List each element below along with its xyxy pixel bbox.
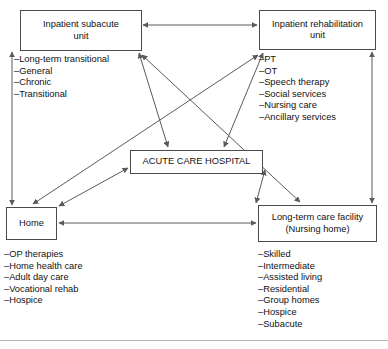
- list-item: –Chronic: [14, 77, 109, 89]
- node-long-term-care-facility[interactable]: Long-term care facility(Nursing home): [258, 205, 377, 242]
- list-item: –Hospice: [258, 307, 322, 319]
- list-item: –Nursing care: [259, 100, 336, 112]
- list-long-term-care-facility: –Skilled –Intermediate –Assisted living …: [258, 249, 322, 330]
- list-item: –Home health care: [4, 261, 83, 273]
- edge-rehab-acute: [224, 53, 263, 147]
- node-label: ACUTE CARE HOSPITAL: [140, 156, 254, 168]
- edge-subacute-acute: [139, 53, 168, 147]
- node-acute-care-hospital[interactable]: ACUTE CARE HOSPITAL: [130, 150, 263, 174]
- node-label: Long-term care facility(Nursing home): [269, 212, 366, 235]
- frame-bottom-divider: [0, 340, 388, 341]
- list-item: –Adult day care: [4, 272, 83, 284]
- list-item: –Transitional: [14, 89, 109, 101]
- list-item: –OP therapies: [4, 249, 83, 261]
- node-label: Inpatient subacuteunit: [40, 19, 122, 42]
- node-label: Inpatient rehabilitationunit: [269, 19, 366, 42]
- list-item: –Skilled: [258, 249, 322, 261]
- node-inpatient-subacute-unit[interactable]: Inpatient subacuteunit: [20, 10, 142, 51]
- list-item: –Subacute: [258, 319, 322, 331]
- list-inpatient-subacute-unit: –Long-term transitional –General –Chroni…: [14, 54, 109, 100]
- list-item: –PT: [259, 54, 336, 66]
- node-home[interactable]: Home: [6, 207, 57, 240]
- list-item: –Vocational rehab: [4, 284, 83, 296]
- list-item: –Long-term transitional: [14, 54, 109, 66]
- list-item: –Intermediate: [258, 261, 322, 273]
- list-item: –Group homes: [258, 295, 322, 307]
- list-item: –Social services: [259, 89, 336, 101]
- node-inpatient-rehabilitation-unit[interactable]: Inpatient rehabilitationunit: [259, 10, 376, 50]
- list-item: –General: [14, 66, 109, 78]
- edge-home-acute: [59, 168, 128, 206]
- list-item: –Hospice: [4, 295, 83, 307]
- node-label: Home: [16, 218, 47, 230]
- list-item: –Speech therapy: [259, 77, 336, 89]
- list-item: –OT: [259, 66, 336, 78]
- list-inpatient-rehabilitation-unit: –PT –OT –Speech therapy –Social services…: [259, 54, 336, 124]
- list-item: –Ancillary services: [259, 112, 336, 124]
- list-item: –Residential: [258, 284, 322, 296]
- list-home: –OP therapies –Home health care –Adult d…: [4, 249, 83, 307]
- care-continuum-diagram: Inpatient subacuteunit –Long-term transi…: [0, 0, 388, 349]
- edge-ltc-acute: [256, 170, 265, 203]
- list-item: –Assisted living: [258, 272, 322, 284]
